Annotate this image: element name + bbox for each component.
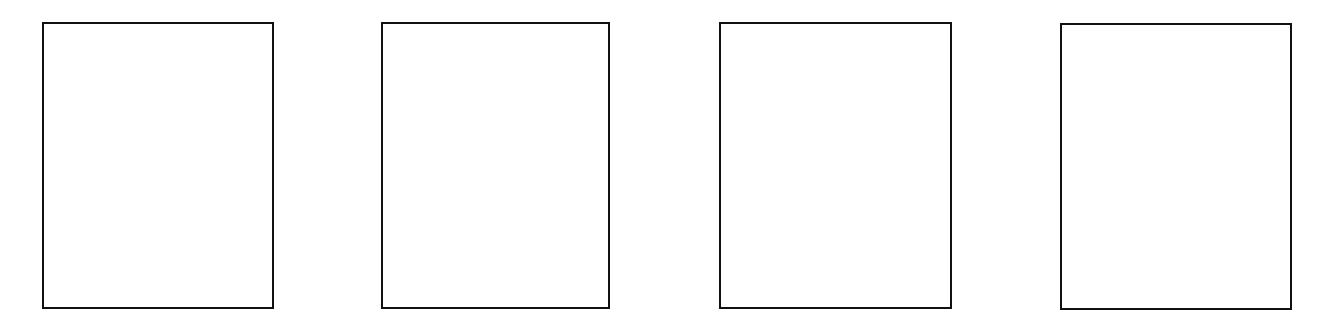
blank-panel-4 <box>1060 23 1292 310</box>
blank-panel-2 <box>381 22 610 309</box>
blank-panel-3 <box>719 22 952 309</box>
blank-panel-1 <box>42 22 274 309</box>
